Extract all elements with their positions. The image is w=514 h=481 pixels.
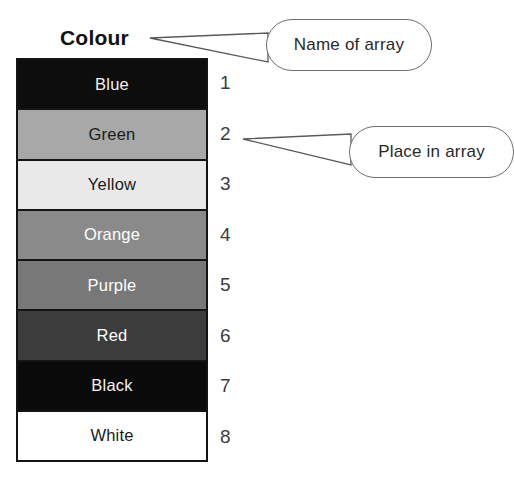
array-index-6: 6 — [220, 311, 254, 362]
array-name-label: Colour — [60, 26, 129, 50]
callout-place-in-array-text: Place in array — [378, 142, 485, 162]
array-cell-7[interactable]: Black — [18, 362, 206, 412]
array-cell-4[interactable]: Orange — [18, 211, 206, 261]
array-cell-1[interactable]: Blue — [18, 60, 206, 110]
array-cell-label: Green — [89, 125, 136, 144]
array-cell-label: Black — [91, 376, 132, 395]
array-index-1: 1 — [220, 58, 254, 109]
array-cell-6[interactable]: Red — [18, 311, 206, 361]
array-index-7: 7 — [220, 361, 254, 412]
array-cell-label: Purple — [88, 276, 137, 295]
array-index-2: 2 — [220, 109, 254, 160]
array-diagram: Colour Blue Green Yellow Orange Purple R… — [0, 0, 514, 481]
leader-wedge-place — [243, 134, 351, 165]
array-cell-3[interactable]: Yellow — [18, 161, 206, 211]
callout-place-in-array: Place in array — [349, 126, 514, 178]
array-index-8: 8 — [220, 412, 254, 463]
array-cell-label: Red — [97, 326, 128, 345]
array-index-5: 5 — [220, 260, 254, 311]
array-cell-2[interactable]: Green — [18, 110, 206, 160]
array-cell-label: Orange — [84, 225, 140, 244]
array-cell-label: Yellow — [88, 175, 136, 194]
array-index-column: 1 2 3 4 5 6 7 8 — [220, 58, 254, 462]
array-cell-label: Blue — [95, 75, 129, 94]
callout-name-of-array: Name of array — [266, 19, 432, 71]
array-index-4: 4 — [220, 210, 254, 261]
array-index-3: 3 — [220, 159, 254, 210]
array-cell-5[interactable]: Purple — [18, 261, 206, 311]
callout-name-of-array-text: Name of array — [294, 35, 404, 55]
array-table: Blue Green Yellow Orange Purple Red Blac… — [16, 58, 208, 462]
array-cell-label: White — [90, 426, 133, 445]
array-cell-8[interactable]: White — [18, 412, 206, 460]
